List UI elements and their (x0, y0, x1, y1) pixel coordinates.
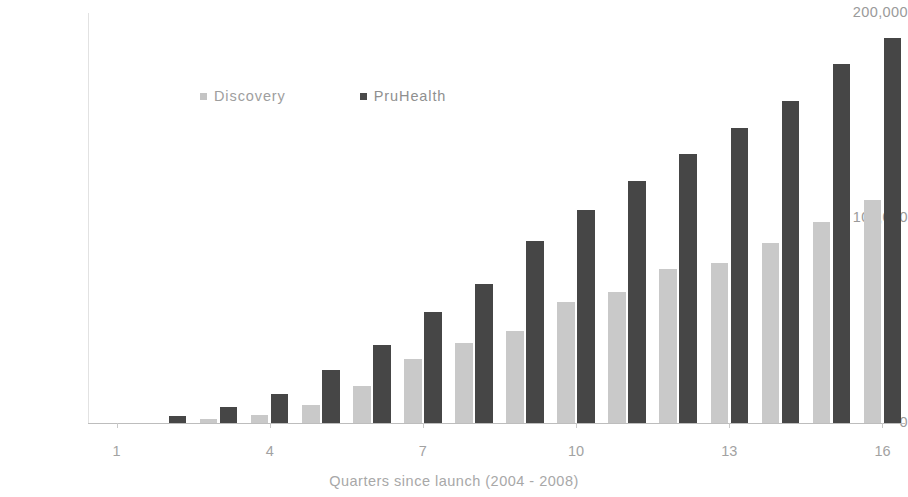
x-tick-mark-13 (729, 423, 730, 428)
bar-pruhealth-q3 (220, 407, 238, 423)
legend-item-discovery: Discovery (200, 88, 286, 104)
bar-pruhealth-q10 (577, 210, 595, 423)
x-tick-mark-7 (423, 423, 424, 428)
bar-pruhealth-q16 (884, 38, 902, 423)
x-axis-line (88, 423, 905, 424)
bar-group-quarter-6 (353, 13, 391, 423)
x-axis-title: Quarters since launch (2004 - 2008) (0, 473, 908, 489)
bar-group-quarter-2 (149, 13, 187, 423)
x-tick-label-4: 4 (250, 443, 290, 459)
bar-discovery-q8 (455, 343, 473, 423)
bar-discovery-q11 (608, 292, 626, 423)
bar-chart: 200,000 100,000 0 147101316 Quarters sin… (0, 0, 908, 497)
bar-group-quarter-15 (813, 13, 851, 423)
bar-discovery-q5 (302, 405, 320, 423)
legend-swatch-icon-discovery (200, 93, 207, 100)
bar-group-quarter-1 (98, 13, 136, 423)
bar-discovery-q9 (506, 331, 524, 423)
bar-pruhealth-q15 (833, 64, 851, 423)
bar-group-quarter-10 (557, 13, 595, 423)
bar-group-quarter-16 (864, 13, 902, 423)
x-tick-mark-16 (882, 423, 883, 428)
bar-pruhealth-q8 (475, 284, 493, 423)
bar-group-quarter-12 (659, 13, 697, 423)
x-tick-label-7: 7 (403, 443, 443, 459)
legend-label-discovery: Discovery (214, 88, 286, 104)
bar-pruhealth-q9 (526, 241, 544, 423)
bar-discovery-q10 (557, 302, 575, 423)
bar-discovery-q16 (864, 200, 882, 423)
chart-legend: Discovery PruHealth (200, 88, 446, 104)
bar-pruhealth-q12 (679, 154, 697, 423)
bar-pruhealth-q11 (628, 181, 646, 423)
bar-discovery-q6 (353, 386, 371, 423)
bar-group-quarter-11 (608, 13, 646, 423)
bar-group-quarter-7 (404, 13, 442, 423)
plot-area (88, 13, 905, 423)
bar-group-quarter-3 (200, 13, 238, 423)
bar-group-quarter-8 (455, 13, 493, 423)
x-tick-label-10: 10 (556, 443, 596, 459)
x-tick-label-13: 13 (709, 443, 749, 459)
bar-pruhealth-q7 (424, 312, 442, 423)
bar-discovery-q13 (711, 263, 729, 423)
bar-pruhealth-q4 (271, 394, 289, 423)
bar-pruhealth-q14 (782, 101, 800, 423)
legend-swatch-icon-pruhealth (360, 93, 367, 100)
bar-group-quarter-5 (302, 13, 340, 423)
bar-discovery-q4 (251, 415, 269, 423)
bar-group-quarter-9 (506, 13, 544, 423)
x-tick-mark-4 (270, 423, 271, 428)
bar-group-quarter-4 (251, 13, 289, 423)
bar-pruhealth-q2 (169, 416, 187, 423)
legend-item-pruhealth: PruHealth (360, 88, 447, 104)
bar-discovery-q7 (404, 359, 422, 423)
bar-group-quarter-14 (762, 13, 800, 423)
bar-group-quarter-13 (711, 13, 749, 423)
legend-label-pruhealth: PruHealth (374, 88, 447, 104)
bar-discovery-q15 (813, 222, 831, 423)
bar-pruhealth-q6 (373, 345, 391, 423)
bar-discovery-q12 (659, 269, 677, 423)
x-tick-mark-10 (576, 423, 577, 428)
x-tick-mark-1 (117, 423, 118, 428)
x-tick-label-16: 16 (862, 443, 902, 459)
bar-discovery-q14 (762, 243, 780, 423)
bar-pruhealth-q5 (322, 370, 340, 423)
bar-pruhealth-q13 (731, 128, 749, 423)
x-tick-label-1: 1 (97, 443, 137, 459)
